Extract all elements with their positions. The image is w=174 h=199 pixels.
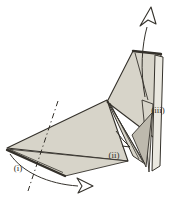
label-step-iii: (iii): [151, 105, 165, 115]
sweep-right-arrow-icon: [77, 178, 93, 193]
pull-up-arrow-icon: [140, 7, 156, 26]
label-step-i: (i): [14, 163, 23, 173]
label-step-ii: (ii): [109, 150, 120, 160]
origami-diagram: (i) (ii) (iii): [0, 0, 174, 199]
diagram-canvas: (i) (ii) (iii): [0, 0, 174, 199]
